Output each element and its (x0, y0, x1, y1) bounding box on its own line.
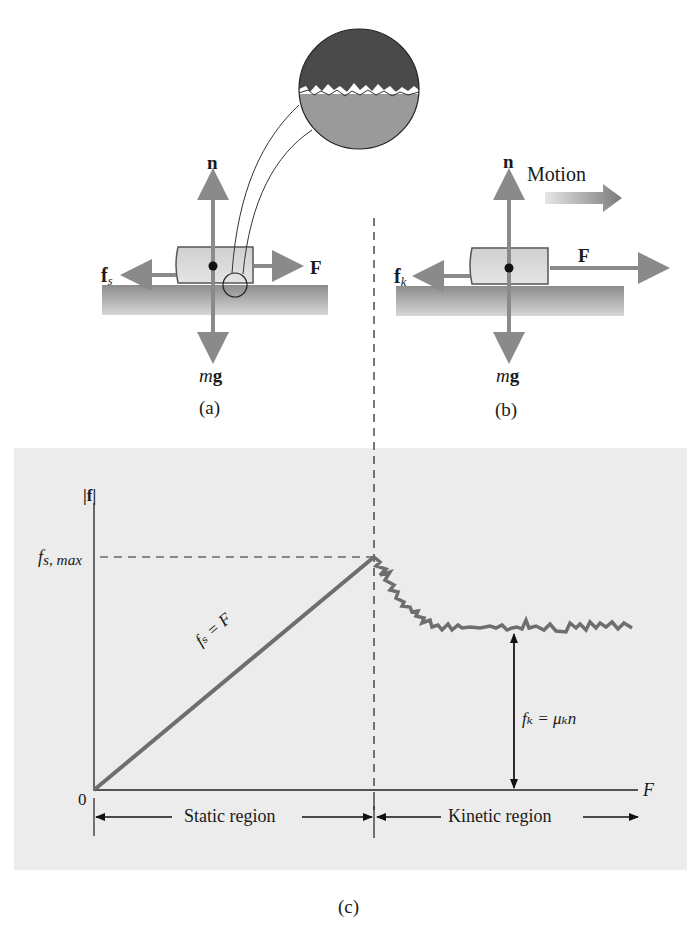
fsmax-subscript: s, max (43, 551, 82, 568)
magnified-surface-view (299, 29, 419, 151)
static-friction-symbol: f (101, 264, 108, 286)
weight-mass-symbol-a: m (199, 365, 213, 386)
figure-a (102, 29, 419, 356)
normal-force-label-b: n (503, 152, 514, 171)
applied-force-label-a: F (310, 258, 322, 277)
motion-label: Motion (527, 164, 586, 184)
caption-b: (b) (495, 400, 517, 419)
static-friction-subscript: s (108, 274, 113, 288)
static-friction-label: fs (101, 265, 113, 288)
kinetic-friction-symbol: f (394, 265, 401, 287)
kinetic-friction-subscript: k (401, 275, 407, 289)
caption-a: (a) (199, 398, 220, 417)
weight-g-symbol-a: g (213, 365, 223, 386)
x-axis-label: F (643, 781, 654, 799)
kinetic-region-label: Kinetic region (448, 807, 551, 825)
center-of-mass-dot-a (209, 262, 218, 271)
caption-c: (c) (338, 897, 359, 916)
kinetic-friction-curve (374, 557, 632, 632)
static-region-label: Static region (184, 807, 275, 825)
normal-force-label-a: n (207, 153, 218, 172)
origin-label: 0 (78, 791, 87, 808)
fsmax-label: fs, max (38, 548, 82, 568)
weight-label-a: mg (199, 366, 222, 385)
diagram-graphics (0, 0, 697, 935)
center-of-mass-dot-b (505, 264, 514, 273)
motion-arrow-icon (545, 184, 622, 212)
weight-g-symbol-b: g (510, 365, 520, 386)
weight-mass-symbol-b: m (496, 365, 510, 386)
kinetic-friction-label: fk (394, 266, 406, 289)
figure-b (396, 176, 662, 356)
weight-label-b: mg (496, 366, 519, 385)
applied-force-label-b: F (578, 246, 590, 265)
kinetic-friction-equation: fₖ = μₖn (522, 710, 576, 727)
y-axis-label: |f| (83, 487, 96, 504)
static-friction-line (94, 557, 374, 790)
